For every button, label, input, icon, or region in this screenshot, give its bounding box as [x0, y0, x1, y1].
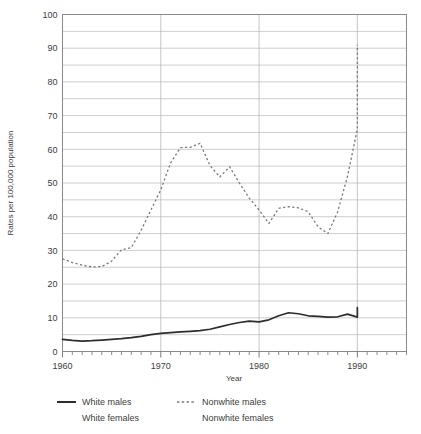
- y-tick-label: 60: [47, 145, 57, 155]
- legend-label-white-females: White females: [82, 413, 140, 423]
- x-axis-title: Year: [226, 374, 243, 383]
- x-tick-label: 1970: [151, 361, 171, 371]
- y-tick-label: 0: [52, 347, 57, 357]
- y-tick-label: 20: [47, 279, 57, 289]
- x-tick-label: 1960: [52, 361, 72, 371]
- y-tick-label: 10: [47, 313, 57, 323]
- y-axis-title: Rates per 100,000 population: [6, 131, 15, 236]
- y-tick-label: 50: [47, 178, 57, 188]
- legend-label-nonwhite-males: Nonwhite males: [202, 397, 267, 407]
- y-tick-label: 90: [47, 43, 57, 53]
- y-tick-label: 30: [47, 246, 57, 256]
- y-tick-label: 80: [47, 77, 57, 87]
- x-tick-label: 1980: [249, 361, 269, 371]
- chart-figure: 0102030405060708090100 1960197019801990 …: [0, 0, 421, 434]
- y-tick-label: 100: [42, 10, 57, 20]
- x-tick-label: 1990: [347, 361, 367, 371]
- legend-label-white-males: White males: [82, 397, 132, 407]
- rates-line-chart: 0102030405060708090100 1960197019801990 …: [0, 0, 421, 434]
- y-tick-label: 70: [47, 111, 57, 121]
- legend-label-nonwhite-females: Nonwhite females: [202, 413, 274, 423]
- y-tick-label: 40: [47, 212, 57, 222]
